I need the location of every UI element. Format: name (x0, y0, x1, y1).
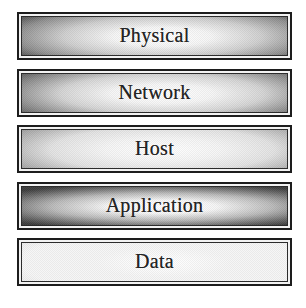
layer-label-application: Application (106, 195, 204, 217)
layer-bar-application: Application (17, 182, 292, 230)
layer-bar-host: Host (17, 125, 292, 173)
layer-label-network: Network (118, 82, 190, 104)
layer-label-physical: Physical (119, 25, 189, 47)
layer-bar-physical: Physical (17, 12, 292, 60)
layer-fill-host: Host (21, 129, 288, 169)
layer-fill-data: Data (21, 242, 288, 282)
layer-fill-network: Network (21, 73, 288, 113)
layer-label-host: Host (135, 138, 174, 160)
figure-canvas: Physical Network Host Application Data (0, 0, 306, 308)
layer-bar-data: Data (17, 238, 292, 286)
layer-bar-network: Network (17, 69, 292, 117)
layer-stack: Physical Network Host Application Data (17, 12, 292, 286)
layer-label-data: Data (135, 251, 174, 273)
layer-fill-application: Application (21, 186, 288, 226)
layer-fill-physical: Physical (21, 16, 288, 56)
